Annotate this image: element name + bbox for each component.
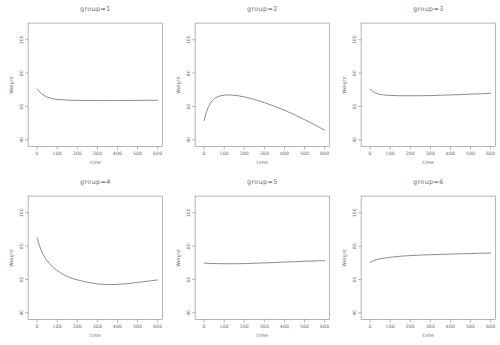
y-axis-label: Weight bbox=[9, 76, 14, 94]
y-tick-label: 60 bbox=[19, 276, 24, 282]
x-tick-label: 500 bbox=[300, 151, 309, 156]
y-tick-label: 40 bbox=[186, 137, 191, 143]
x-tick-label: 400 bbox=[446, 324, 455, 329]
x-tick-label: 200 bbox=[406, 151, 415, 156]
x-tick-label: 500 bbox=[133, 324, 142, 329]
x-tick-label: 300 bbox=[426, 324, 435, 329]
x-tick-label: 300 bbox=[259, 151, 268, 156]
y-tick-label: 40 bbox=[19, 309, 24, 315]
y-tick-label: 100 bbox=[19, 208, 24, 217]
y-axis-label: Weight bbox=[342, 76, 347, 94]
x-tick-label: 500 bbox=[466, 324, 475, 329]
x-tick-label: 0 bbox=[36, 324, 39, 329]
x-axis-label: time bbox=[90, 332, 102, 337]
y-tick-label: 80 bbox=[353, 70, 358, 76]
x-tick-label: 500 bbox=[133, 151, 142, 156]
chart-panel-group-1: group=14060801000100200300400500600Weigh… bbox=[0, 0, 167, 173]
x-axis-label: time bbox=[423, 160, 435, 165]
x-tick-label: 0 bbox=[369, 324, 372, 329]
chart-title: group=3 bbox=[413, 5, 444, 13]
x-tick-label: 200 bbox=[239, 324, 248, 329]
x-tick-label: 300 bbox=[426, 151, 435, 156]
x-tick-label: 200 bbox=[73, 151, 82, 156]
y-tick-label: 80 bbox=[186, 70, 191, 76]
x-tick-label: 400 bbox=[446, 151, 455, 156]
plot-border bbox=[361, 196, 496, 319]
x-tick-label: 600 bbox=[486, 151, 495, 156]
y-tick-label: 60 bbox=[353, 276, 358, 282]
x-axis-label: time bbox=[423, 332, 435, 337]
x-tick-label: 0 bbox=[369, 151, 372, 156]
series-weight-curve bbox=[37, 237, 157, 284]
series-weight-curve bbox=[370, 253, 490, 262]
x-tick-label: 200 bbox=[239, 151, 248, 156]
y-tick-label: 40 bbox=[353, 309, 358, 315]
chart-title: group=5 bbox=[247, 178, 278, 186]
plot-border bbox=[195, 23, 330, 146]
y-tick-label: 80 bbox=[186, 242, 191, 248]
y-tick-label: 100 bbox=[186, 35, 191, 44]
x-tick-label: 600 bbox=[153, 324, 162, 329]
y-axis-label: Weight bbox=[175, 248, 180, 266]
x-tick-label: 400 bbox=[113, 151, 122, 156]
x-axis-label: time bbox=[90, 160, 102, 165]
x-tick-label: 200 bbox=[406, 324, 415, 329]
charts-grid: group=14060801000100200300400500600Weigh… bbox=[0, 0, 500, 345]
x-tick-label: 0 bbox=[202, 151, 205, 156]
series-weight-curve bbox=[370, 89, 490, 96]
x-tick-label: 0 bbox=[202, 324, 205, 329]
page: group=14060801000100200300400500600Weigh… bbox=[0, 0, 500, 345]
chart-title: group=6 bbox=[413, 178, 444, 186]
x-tick-label: 100 bbox=[53, 151, 62, 156]
x-tick-label: 400 bbox=[279, 324, 288, 329]
y-tick-label: 40 bbox=[186, 309, 191, 315]
y-tick-label: 100 bbox=[186, 208, 191, 217]
plot-border bbox=[361, 23, 496, 146]
x-tick-label: 100 bbox=[53, 324, 62, 329]
y-tick-label: 100 bbox=[353, 208, 358, 217]
chart-title: group=2 bbox=[247, 5, 278, 13]
plot-border bbox=[195, 196, 330, 319]
series-weight-curve bbox=[37, 89, 157, 101]
chart-panel-group-2: group=24060801000100200300400500600Weigh… bbox=[167, 0, 334, 173]
chart-panel-group-4: group=44060801000100200300400500600Weigh… bbox=[0, 173, 167, 345]
y-tick-label: 100 bbox=[19, 35, 24, 44]
y-tick-label: 40 bbox=[353, 137, 358, 143]
chart-panel-group-3: group=34060801000100200300400500600Weigh… bbox=[333, 0, 500, 173]
x-tick-label: 100 bbox=[219, 151, 228, 156]
y-tick-label: 60 bbox=[353, 103, 358, 109]
plot-border bbox=[28, 196, 163, 319]
x-axis-label: time bbox=[256, 160, 268, 165]
y-tick-label: 100 bbox=[353, 35, 358, 44]
x-tick-label: 400 bbox=[279, 151, 288, 156]
x-tick-label: 400 bbox=[113, 324, 122, 329]
x-tick-label: 600 bbox=[486, 324, 495, 329]
x-tick-label: 0 bbox=[36, 151, 39, 156]
x-tick-label: 500 bbox=[300, 324, 309, 329]
y-tick-label: 80 bbox=[353, 242, 358, 248]
y-axis-label: Weight bbox=[342, 248, 347, 266]
x-tick-label: 600 bbox=[153, 151, 162, 156]
x-tick-label: 100 bbox=[219, 324, 228, 329]
y-tick-label: 40 bbox=[19, 137, 24, 143]
y-tick-label: 60 bbox=[186, 276, 191, 282]
x-tick-label: 500 bbox=[466, 151, 475, 156]
x-tick-label: 100 bbox=[386, 324, 395, 329]
y-tick-label: 60 bbox=[19, 103, 24, 109]
series-weight-curve bbox=[204, 95, 324, 130]
x-tick-label: 300 bbox=[93, 324, 102, 329]
y-tick-label: 60 bbox=[186, 103, 191, 109]
chart-title: group=4 bbox=[80, 178, 111, 186]
chart-panel-group-6: group=64060801000100200300400500600Weigh… bbox=[333, 173, 500, 345]
chart-title: group=1 bbox=[80, 5, 111, 13]
plot-border bbox=[28, 23, 163, 146]
x-tick-label: 600 bbox=[320, 324, 329, 329]
series-weight-curve bbox=[204, 260, 324, 263]
y-tick-label: 80 bbox=[19, 242, 24, 248]
chart-panel-group-5: group=54060801000100200300400500600Weigh… bbox=[167, 173, 334, 345]
y-tick-label: 80 bbox=[19, 70, 24, 76]
y-axis-label: Weight bbox=[9, 248, 14, 266]
y-axis-label: Weight bbox=[175, 76, 180, 94]
x-tick-label: 300 bbox=[259, 324, 268, 329]
x-tick-label: 200 bbox=[73, 324, 82, 329]
